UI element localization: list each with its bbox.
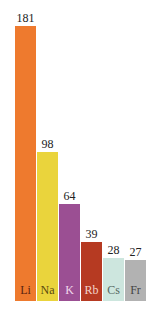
category-label: K (59, 283, 80, 298)
value-label: 39 (77, 227, 106, 242)
bar-na (37, 152, 58, 301)
value-label: 64 (55, 189, 84, 204)
category-label: Li (15, 283, 36, 298)
value-label: 98 (33, 137, 62, 152)
value-label: 27 (121, 245, 150, 260)
category-label: Fr (125, 283, 146, 298)
category-label: Na (37, 283, 58, 298)
category-label: Rb (81, 283, 102, 298)
value-label: 181 (11, 11, 40, 26)
category-label: Cs (103, 283, 124, 298)
bar-chart: 181Li98Na64K39Rb28Cs27Fr (0, 0, 156, 310)
bar-li (15, 26, 36, 301)
